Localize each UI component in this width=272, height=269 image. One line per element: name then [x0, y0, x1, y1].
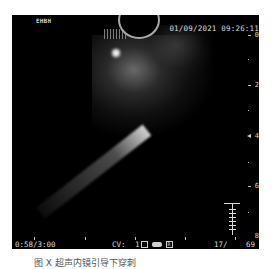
ultrasound-frame: EHBH 01/09/2021 09:26:11 0 2 4 6 8 0:58/…	[12, 15, 259, 249]
capsule-icon	[152, 242, 162, 247]
depth-tick	[248, 35, 251, 36]
figure-caption: 图 X 超声内镜引导下穿刺	[34, 256, 136, 269]
logo: EHBH	[36, 17, 51, 25]
depth-label-8: 8	[255, 232, 259, 240]
r-icon: R	[166, 241, 173, 248]
depth-tick	[248, 110, 249, 111]
depth-tick	[248, 212, 249, 213]
cine-elapsed: 0:58/3:00	[15, 240, 56, 249]
scale-bar-icon	[224, 203, 240, 237]
depth-label-4: 4	[255, 132, 259, 140]
frame-counter: 17/	[214, 240, 228, 249]
cv-label: CV:	[112, 240, 126, 249]
depth-label-2: 2	[255, 81, 259, 89]
depth-label-0: 0	[255, 31, 259, 39]
depth-tick	[248, 59, 249, 60]
square-icon	[141, 241, 148, 248]
frame-total: 69	[246, 240, 255, 249]
cv-value: 1	[135, 240, 140, 249]
needle-tip	[112, 49, 120, 57]
date-time: 01/09/2021 09:26:11	[169, 25, 259, 33]
needle-track	[36, 124, 151, 218]
depth-tick	[248, 85, 251, 86]
focus-marker-icon	[247, 134, 251, 138]
depth-label-6: 6	[255, 182, 259, 190]
status-bar: 0:58/3:00 CV: 1R 17/ 69	[12, 240, 259, 249]
depth-tick	[248, 186, 251, 187]
depth-tick	[248, 162, 249, 163]
